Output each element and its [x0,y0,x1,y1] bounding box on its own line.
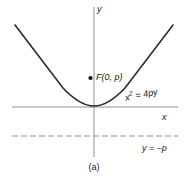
figure-canvas [0,0,188,186]
focus-point [88,76,92,80]
figure-caption: (a) [0,163,188,172]
y-axis-label: y [97,5,102,14]
directrix-label: y = –p [142,144,167,153]
x-axis-label: x [162,113,167,122]
focus-label: F(0, p) [96,73,123,82]
parabola-figure: y x F(0, p) x2 = 4py y = –p (a) [0,0,188,186]
